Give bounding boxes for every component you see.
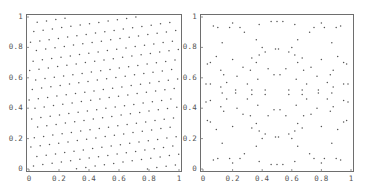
data-point: [168, 80, 170, 82]
data-point: [150, 157, 152, 159]
data-point: [67, 141, 69, 143]
data-point: [110, 145, 112, 147]
x-tick-label: 0.6: [109, 174, 129, 183]
data-point: [46, 125, 48, 127]
data-point: [337, 56, 339, 58]
data-point: [87, 81, 89, 83]
data-point: [171, 69, 173, 71]
data-point: [123, 28, 125, 30]
data-point: [346, 120, 348, 122]
data-point: [33, 165, 35, 167]
data-point: [216, 56, 218, 58]
data-point: [114, 134, 116, 136]
data-point: [165, 166, 167, 168]
data-point: [133, 104, 135, 106]
data-point: [150, 53, 152, 55]
data-point: [63, 75, 65, 77]
data-point: [144, 45, 146, 47]
data-point: [113, 30, 115, 32]
data-point: [210, 62, 212, 64]
data-point: [161, 100, 163, 102]
data-point: [49, 144, 51, 146]
data-point: [58, 142, 60, 144]
data-point: [46, 20, 48, 22]
data-point: [313, 158, 315, 160]
data-point: [132, 27, 134, 29]
data-point: [294, 54, 296, 56]
data-point: [141, 26, 143, 28]
data-point: [141, 159, 143, 161]
data-point: [103, 89, 105, 91]
data-point: [347, 101, 349, 103]
data-point: [264, 89, 266, 91]
data-point: [116, 153, 118, 155]
data-point: [34, 107, 36, 109]
data-point: [275, 48, 277, 50]
data-point: [105, 108, 107, 110]
data-point: [235, 89, 237, 91]
data-point: [96, 109, 98, 111]
data-point: [169, 22, 171, 24]
data-point: [291, 47, 293, 49]
data-point: [250, 69, 252, 71]
y-tick-label: 0.2: [3, 134, 23, 143]
data-point: [285, 115, 287, 117]
data-point: [278, 48, 280, 50]
data-point: [71, 102, 73, 104]
data-point: [144, 149, 146, 151]
data-point: [146, 92, 148, 94]
data-point: [97, 79, 99, 81]
data-point: [217, 158, 219, 160]
data-point: [72, 74, 74, 76]
data-point: [163, 147, 165, 149]
data-point: [295, 104, 297, 106]
data-point: [55, 124, 57, 126]
data-point: [107, 50, 109, 52]
data-point: [232, 22, 234, 24]
data-point: [220, 86, 222, 88]
data-point: [89, 129, 91, 131]
data-point: [49, 116, 51, 118]
data-point: [310, 114, 312, 116]
data-point: [79, 54, 81, 56]
data-point: [157, 139, 159, 141]
data-point: [112, 87, 114, 89]
data-point: [57, 66, 59, 68]
data-point: [282, 21, 284, 23]
data-point: [47, 97, 49, 99]
data-point: [207, 120, 209, 122]
data-point: [117, 125, 119, 127]
data-point: [94, 61, 96, 63]
data-point: [331, 92, 333, 94]
data-point: [64, 152, 66, 154]
data-point: [267, 68, 269, 70]
data-point: [160, 23, 162, 25]
x-tick-label: 0.6: [282, 174, 302, 183]
data-point: [158, 81, 160, 83]
data-point: [54, 47, 56, 49]
y-tick-label: 0.8: [177, 42, 197, 51]
data-point: [330, 74, 332, 76]
data-point: [59, 85, 61, 87]
data-point: [270, 164, 272, 166]
data-point: [91, 71, 93, 73]
data-point: [258, 161, 260, 163]
data-point: [64, 46, 66, 48]
data-point: [166, 31, 168, 33]
data-point: [235, 92, 237, 94]
data-point: [282, 164, 284, 166]
y-tick-label: 1: [3, 12, 23, 21]
data-point: [258, 24, 260, 26]
data-point: [136, 122, 138, 124]
data-point: [31, 118, 33, 120]
data-point: [120, 144, 122, 146]
data-point: [113, 58, 115, 60]
data-point: [220, 106, 222, 108]
data-point: [77, 112, 79, 114]
data-point: [74, 121, 76, 123]
data-point: [94, 165, 96, 167]
data-point: [303, 69, 305, 71]
data-point: [250, 115, 252, 117]
data-point: [147, 168, 149, 170]
data-point: [108, 126, 110, 128]
